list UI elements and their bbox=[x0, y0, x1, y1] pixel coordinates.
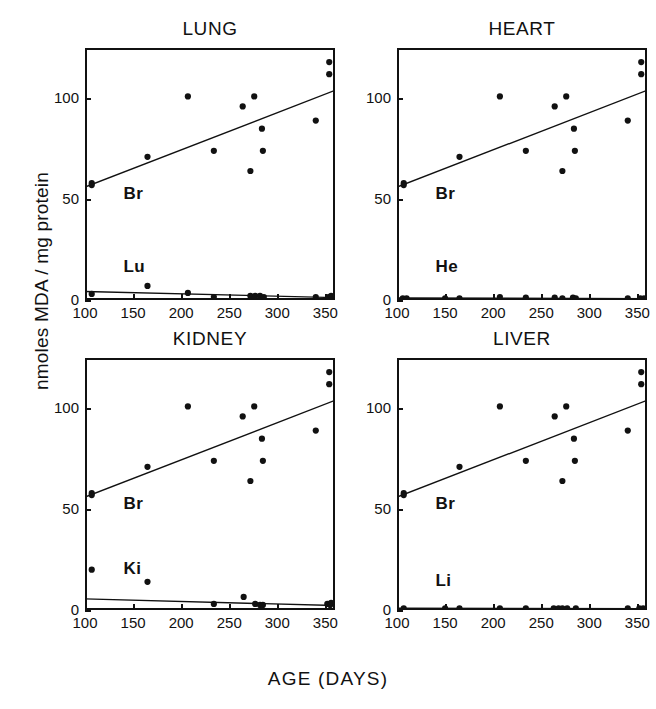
data-point-li bbox=[523, 605, 529, 610]
y-tick-label-100: 100 bbox=[347, 399, 391, 416]
series-label-ki: Ki bbox=[123, 559, 141, 579]
data-point-ki bbox=[89, 567, 95, 573]
data-point-br bbox=[497, 403, 503, 409]
x-tick-label-200: 200 bbox=[468, 614, 518, 631]
data-point-he bbox=[559, 295, 565, 300]
y-tick-0 bbox=[397, 610, 403, 612]
series-label-br: Br bbox=[123, 494, 143, 514]
data-point-ki bbox=[211, 601, 217, 607]
x-axis-label: AGE (DAYS) bbox=[0, 668, 656, 690]
data-point-br bbox=[89, 492, 95, 498]
x-tick-label-350: 350 bbox=[300, 614, 350, 631]
panel-title-lung: LUNG bbox=[85, 18, 335, 40]
data-point-br bbox=[144, 464, 150, 470]
panel-title-kidney: KIDNEY bbox=[85, 328, 335, 350]
x-tick-label-250: 250 bbox=[204, 304, 254, 321]
data-point-br bbox=[326, 59, 332, 65]
x-tick-label-300: 300 bbox=[564, 304, 614, 321]
data-point-br bbox=[313, 427, 319, 433]
series-label-he: He bbox=[435, 257, 458, 277]
x-tick-label-350: 350 bbox=[612, 304, 656, 321]
data-point-br bbox=[497, 93, 503, 99]
y-tick-label-100: 100 bbox=[35, 89, 79, 106]
y-tick-label-100: 100 bbox=[347, 89, 391, 106]
data-point-br bbox=[401, 492, 407, 498]
data-point-br bbox=[638, 59, 644, 65]
data-point-br bbox=[251, 93, 257, 99]
data-point-br bbox=[211, 148, 217, 154]
data-point-br bbox=[638, 369, 644, 375]
series-label-lu: Lu bbox=[123, 257, 145, 277]
data-point-br bbox=[259, 436, 265, 442]
x-tick-label-300: 300 bbox=[252, 614, 302, 631]
data-point-br bbox=[185, 93, 191, 99]
data-point-he bbox=[523, 294, 529, 300]
y-tick-label-50: 50 bbox=[347, 190, 391, 207]
data-point-br bbox=[625, 117, 631, 123]
data-point-br bbox=[523, 458, 529, 464]
fit-line-lu bbox=[85, 292, 335, 298]
x-tick-label-250: 250 bbox=[516, 304, 566, 321]
data-point-br bbox=[456, 464, 462, 470]
y-tick-0 bbox=[397, 300, 403, 302]
data-point-br bbox=[571, 126, 577, 132]
x-tick-label-150: 150 bbox=[108, 614, 158, 631]
data-point-br bbox=[247, 478, 253, 484]
series-label-li: Li bbox=[435, 571, 451, 591]
fit-line-br bbox=[397, 90, 647, 187]
panel-title-heart: HEART bbox=[397, 18, 647, 40]
panel-liver: LIVER100150200250300350050100BrLi bbox=[397, 358, 647, 610]
x-tick-label-300: 300 bbox=[252, 304, 302, 321]
y-tick-label-0: 0 bbox=[35, 601, 79, 618]
data-point-br bbox=[572, 458, 578, 464]
data-point-ki bbox=[144, 579, 150, 585]
data-point-br bbox=[559, 168, 565, 174]
data-point-li bbox=[625, 605, 631, 610]
data-point-br bbox=[326, 71, 332, 77]
y-tick-label-50: 50 bbox=[347, 500, 391, 517]
y-tick-0 bbox=[85, 300, 91, 302]
panel-heart: HEART100150200250300350050100BrHe bbox=[397, 48, 647, 300]
data-point-li bbox=[573, 605, 579, 610]
data-point-li bbox=[442, 605, 448, 610]
data-point-br bbox=[456, 154, 462, 160]
data-point-br bbox=[326, 381, 332, 387]
x-tick-label-150: 150 bbox=[420, 304, 470, 321]
series-label-br: Br bbox=[435, 184, 455, 204]
data-point-br bbox=[563, 93, 569, 99]
fit-line-he bbox=[397, 298, 647, 299]
data-point-lu bbox=[185, 290, 191, 296]
data-point-lu bbox=[261, 294, 267, 300]
data-point-br bbox=[144, 154, 150, 160]
data-point-br bbox=[240, 413, 246, 419]
data-point-li bbox=[497, 605, 503, 610]
panel-lung: LUNG100150200250300350050100BrLu bbox=[85, 48, 335, 300]
data-point-br bbox=[89, 182, 95, 188]
y-tick-label-50: 50 bbox=[35, 500, 79, 517]
panel-kidney: KIDNEY100150200250300350050100BrKi bbox=[85, 358, 335, 610]
data-point-br bbox=[260, 148, 266, 154]
data-point-br bbox=[211, 458, 217, 464]
data-point-he bbox=[625, 295, 631, 300]
data-point-br bbox=[625, 427, 631, 433]
data-point-lu bbox=[211, 294, 217, 300]
data-point-lu bbox=[89, 291, 95, 297]
y-tick-label-0: 0 bbox=[347, 291, 391, 308]
y-tick-label-50: 50 bbox=[35, 190, 79, 207]
data-point-he bbox=[456, 295, 462, 300]
x-tick-label-150: 150 bbox=[420, 614, 470, 631]
data-point-br bbox=[552, 103, 558, 109]
x-tick-label-300: 300 bbox=[564, 614, 614, 631]
data-point-lu bbox=[144, 283, 150, 289]
data-point-br bbox=[638, 381, 644, 387]
data-point-lu bbox=[313, 294, 319, 300]
y-tick-0 bbox=[85, 610, 91, 612]
data-point-br bbox=[260, 458, 266, 464]
x-tick-label-200: 200 bbox=[156, 304, 206, 321]
fit-line-ki bbox=[85, 599, 335, 606]
y-tick-label-0: 0 bbox=[347, 601, 391, 618]
fit-line-br bbox=[85, 90, 335, 187]
data-point-he bbox=[497, 294, 503, 300]
x-tick-label-250: 250 bbox=[516, 614, 566, 631]
panel-title-liver: LIVER bbox=[397, 328, 647, 350]
